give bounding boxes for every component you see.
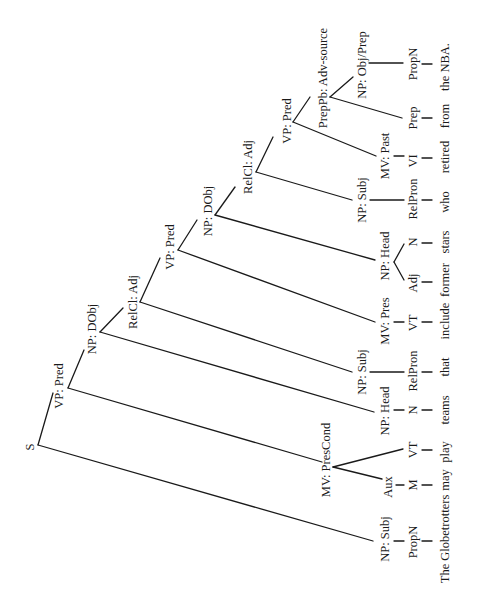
pos-vi-retired: VI: [406, 154, 420, 167]
node-vp-pred-2: VP: Pred: [163, 224, 177, 270]
node-mv-prescond: MV: PresCond: [319, 422, 333, 497]
node-np-dobj-2: NP: DObj: [201, 186, 215, 236]
pos-m: M: [406, 479, 420, 490]
node-vp-pred-3: VP: Pred: [280, 98, 294, 144]
word-the-nba: the NBA.: [438, 43, 452, 91]
node-np-subj-0: NP: Subj: [378, 516, 392, 562]
word-that: that: [438, 357, 452, 376]
node-np-subj-2: NP: Subj: [355, 177, 369, 223]
word-from: from: [438, 104, 452, 129]
pos-relpron-who: RelPron: [406, 178, 420, 220]
node-np-dobj-1: NP: DObj: [85, 304, 99, 354]
pos-adj-former: Adj: [406, 274, 420, 293]
pos-prep-from: Prep: [406, 107, 420, 130]
node-mv-pres: MV: Pres: [378, 297, 392, 344]
pos-aux: Aux: [381, 475, 395, 497]
syntax-tree-diagram: S VP: Pred NP: DObj RelCl: Adj VP: Pred …: [0, 0, 478, 611]
word-who: who: [438, 191, 452, 213]
pos-n-teams: N: [406, 405, 420, 414]
node-relcl-adj-1: RelCl: Adj: [126, 275, 140, 329]
node-relcl-adj-2: RelCl: Adj: [241, 140, 255, 194]
phrase-labels: S VP: Pred NP: DObj RelCl: Adj VP: Pred …: [23, 27, 392, 561]
pos-propn-nba: PropN: [406, 48, 420, 81]
node-np-head-1: NP: Head: [378, 386, 392, 436]
node-np-obj-prep: NP: Obj/Prep: [355, 31, 369, 99]
node-np-subj-1: NP: Subj: [355, 349, 369, 395]
word-stars: stars: [438, 230, 452, 253]
node-mv-past: MV: Past: [378, 132, 392, 179]
tree-branches: [38, 63, 432, 541]
node-vp-pred-1: VP: Pred: [52, 363, 66, 409]
pos-vt-include: VT: [406, 314, 420, 331]
word-former: former: [438, 262, 452, 297]
word-row: The Globetrotters may play teams that in…: [438, 43, 452, 583]
word-include: include: [438, 302, 452, 339]
node-prepph-adv-source: PrepPb: Adv-source: [316, 27, 330, 128]
word-teams: teams: [438, 395, 452, 424]
pos-vt-play: VT: [406, 441, 420, 458]
node-np-head-2: NP: Head: [378, 231, 392, 281]
word-retired: retired: [438, 140, 452, 173]
pos-n-stars: N: [406, 237, 420, 246]
word-play: play: [438, 440, 452, 462]
pos-relpron-that: RelPron: [406, 350, 420, 392]
word-the-globetrotters: The Globetrotters: [438, 495, 452, 584]
node-s: S: [23, 443, 37, 450]
pos-propn-globetrotters: PropN: [406, 526, 420, 559]
word-may: may: [438, 468, 452, 490]
